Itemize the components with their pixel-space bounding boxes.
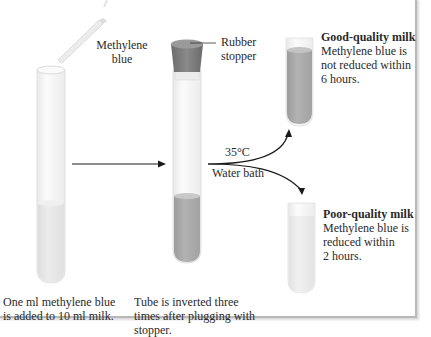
rubber-stopper-line2: stopper [221,49,256,63]
test-tube-step1 [37,66,65,283]
step1-caption-line1: One ml methylene blue [3,295,115,309]
good-quality-line3: 6 hours. [321,72,415,86]
poor-quality-line2: reduced within [323,235,414,249]
step2-caption-line3: stopper. [134,323,255,337]
test-tube-step2 [173,68,201,263]
arrow-right [72,161,166,168]
water-bath-label: Water bath [212,166,264,180]
good-quality-label: Good-quality milk Methylene blue is not … [321,30,415,86]
poor-quality-title: Poor-quality milk [323,207,414,221]
rubber-stopper-line1: Rubber [221,35,256,49]
rubber-stopper-icon [171,40,216,73]
temperature-label: 35°C [225,145,250,159]
branch-arrows [208,129,305,195]
step1-caption: One ml methylene blue is added to 10 ml … [3,295,115,323]
methylene-blue-label: Methylene blue [92,38,152,66]
methylene-blue-line2: blue [92,52,152,66]
test-tube-poor-quality [288,203,315,293]
step2-caption-line2: times after plugging with [134,309,255,323]
step1-caption-line2: is added to 10 ml milk. [3,309,115,323]
test-tube-good-quality [286,38,313,126]
good-quality-title: Good-quality milk [321,30,415,44]
poor-quality-line3: 2 hours. [323,249,414,263]
good-quality-line2: not reduced within [321,58,415,72]
good-quality-line1: Methylene blue is [321,44,415,58]
rubber-stopper-label: Rubber stopper [221,35,256,63]
methylene-blue-line1: Methylene [92,38,152,52]
poor-quality-label: Poor-quality milk Methylene blue is redu… [323,207,414,263]
step2-caption-line1: Tube is inverted three [134,295,255,309]
step2-caption: Tube is inverted three times after plugg… [134,295,255,337]
poor-quality-line1: Methylene blue is [323,221,414,235]
